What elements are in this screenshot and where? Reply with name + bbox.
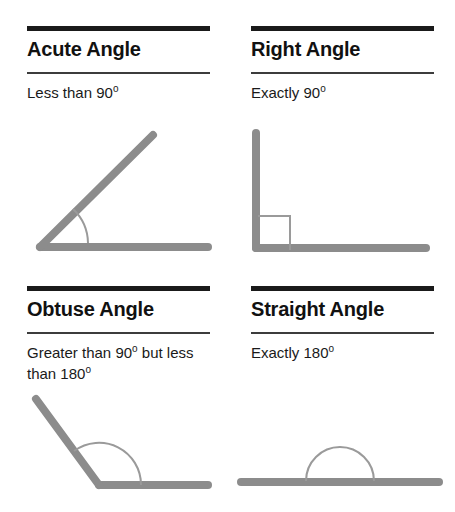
- card-description-line-1: Greater than 90: [27, 344, 132, 361]
- card-description: Exactly 180o: [251, 342, 334, 363]
- card-divider-rule: [251, 72, 434, 74]
- card-heading: Right Angle: [251, 36, 360, 62]
- right-angle-rays: [256, 133, 426, 248]
- acute-angle-rays: [40, 135, 208, 247]
- card-acute-angle: Acute Angle Less than 90o: [0, 0, 228, 260]
- card-description: Less than 90o: [27, 82, 118, 103]
- card-heading: Obtuse Angle: [27, 296, 154, 322]
- card-obtuse-angle: Obtuse Angle Greater than 90o but less t…: [0, 260, 228, 512]
- card-description: Exactly 90o: [251, 82, 326, 103]
- card-divider-rule: [27, 72, 210, 74]
- card-top-rule: [251, 286, 434, 291]
- card-description-line-1: Exactly 90: [251, 84, 320, 101]
- card-heading: Acute Angle: [27, 36, 141, 62]
- angles-grid: Acute Angle Less than 90o R: [0, 0, 455, 512]
- card-top-rule: [27, 286, 210, 291]
- card-description-line-1: Exactly 180: [251, 344, 329, 361]
- card-description-suffix: but: [138, 344, 163, 361]
- degree-symbol: o: [320, 83, 326, 94]
- card-divider-rule: [251, 332, 434, 334]
- angles-diagram-sheet: Acute Angle Less than 90o R: [0, 0, 455, 512]
- card-top-rule: [251, 26, 434, 31]
- obtuse-angle-rays: [36, 399, 208, 485]
- card-description: Greater than 90o but less than 180o: [27, 342, 217, 384]
- degree-symbol: o: [329, 343, 335, 354]
- card-heading: Straight Angle: [251, 296, 384, 322]
- card-top-rule: [27, 26, 210, 31]
- card-right-angle: Right Angle Exactly 90o: [228, 0, 455, 260]
- card-divider-rule: [27, 332, 210, 334]
- degree-symbol: o: [85, 364, 91, 375]
- card-description-line-1: Less than 90: [27, 84, 113, 101]
- degree-symbol: o: [113, 83, 119, 94]
- card-straight-angle: Straight Angle Exactly 180o: [228, 260, 455, 512]
